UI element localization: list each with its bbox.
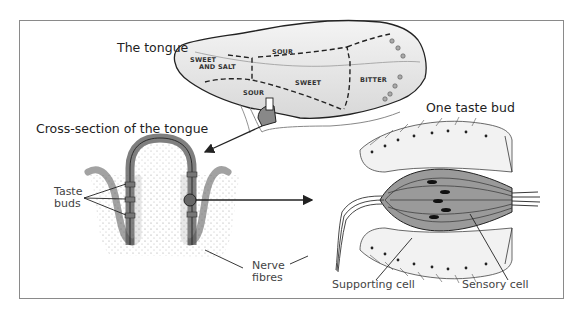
supporting-cell-label: Supporting cell <box>332 279 415 291</box>
taste-bud-illustration <box>336 117 540 283</box>
tongue-illustration <box>174 20 426 133</box>
zone-sweet-and-salt-line2: AND SALT <box>190 64 236 71</box>
nerve-fibres-label: Nerve fibres <box>252 260 285 284</box>
taste-buds-label: Taste buds <box>54 186 82 210</box>
arrow-to-cross-section <box>205 126 262 152</box>
zone-sour-top: SOUR <box>272 49 293 56</box>
taste-buds-label-line2: buds <box>54 198 82 210</box>
cross-section-title: Cross-section of the tongue <box>36 122 208 136</box>
sensory-cell-label: Sensory cell <box>462 279 529 291</box>
nerve-fibres-label-line2: fibres <box>252 272 285 284</box>
zone-bitter: BITTER <box>360 77 387 84</box>
taste-bud-title: One taste bud <box>426 101 515 115</box>
zone-sour-bottom: SOUR <box>243 90 264 97</box>
cross-section-illustration <box>84 138 308 268</box>
tongue-title: The tongue <box>117 41 188 55</box>
zone-sweet-and-salt: SWEET AND SALT <box>190 57 236 72</box>
zone-sweet: SWEET <box>295 80 321 87</box>
